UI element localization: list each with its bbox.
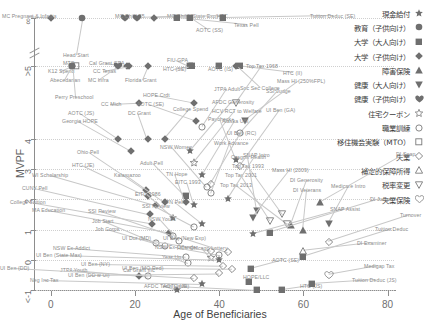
data-point-marker[interactable]	[190, 274, 198, 282]
legend-square-open-icon	[414, 138, 424, 146]
data-point-marker[interactable]	[215, 269, 223, 277]
data-point-label: AOTC (SS)	[196, 27, 223, 33]
data-point-label: DI Snap	[396, 151, 415, 157]
data-point-marker[interactable]	[224, 195, 232, 204]
data-point-label: MC Pregnant & Infants	[2, 13, 57, 19]
data-point-marker[interactable]	[144, 135, 152, 143]
data-point-label: UI Ben (DD)	[0, 265, 29, 271]
data-point-marker[interactable]	[78, 14, 86, 22]
legend-star-icon	[414, 9, 424, 18]
y-tick-label: 0	[0, 254, 28, 266]
data-point-label: AOTC (SE)	[272, 257, 299, 263]
data-point-marker[interactable]	[228, 265, 236, 273]
data-point-label: Florida Grant	[125, 77, 157, 83]
legend-heart-open-icon	[414, 195, 424, 203]
data-point-marker[interactable]	[325, 220, 333, 228]
legend-label: 健康（子供向け）	[354, 93, 410, 104]
data-point-marker[interactable]	[161, 135, 169, 143]
data-point-marker[interactable]	[207, 189, 215, 197]
data-point-marker[interactable]	[324, 271, 333, 279]
data-point-label: Mass HI (250%FPL)	[277, 78, 325, 84]
data-point-marker[interactable]	[232, 62, 240, 70]
data-point-label: College Tuition	[10, 199, 46, 205]
data-point-marker[interactable]	[133, 14, 142, 22]
legend-item[interactable]: 住宅クーポン	[320, 106, 424, 120]
data-point-label: Neg Inc Tax	[30, 277, 58, 283]
data-point-marker[interactable]	[127, 147, 135, 155]
data-point-label: Tuition Deduc (JS)	[352, 277, 397, 283]
data-point-label: UI Ben (GA)	[266, 107, 295, 113]
data-point-marker[interactable]	[253, 286, 261, 294]
legend-item[interactable]: 健康（子供向け）	[320, 92, 424, 106]
data-point-marker[interactable]	[186, 147, 194, 156]
data-point-marker[interactable]	[224, 248, 232, 256]
data-point-label: SNAP Assist	[330, 206, 360, 212]
data-point-marker[interactable]	[266, 217, 274, 225]
data-point-label: Work Advance	[214, 140, 249, 146]
data-point-marker[interactable]	[114, 62, 123, 70]
legend-item[interactable]: 健康（大人向け）	[320, 77, 424, 91]
data-point-label: Head Start	[63, 52, 89, 58]
legend-item[interactable]: 大学（大人向け）	[320, 35, 424, 49]
legend-item[interactable]: 教育（子供向け）	[320, 20, 424, 34]
legend-item[interactable]: 大学（子供向け）	[320, 49, 424, 63]
data-point-label: CUNY Pell	[22, 185, 48, 191]
legend-item[interactable]: 職業訓練	[320, 120, 424, 134]
x-axis-title: Age of Beneficiaries	[120, 308, 320, 320]
data-point-marker[interactable]	[278, 286, 286, 294]
data-point-marker[interactable]	[198, 171, 206, 180]
legend-item[interactable]: 障害保険	[320, 63, 424, 77]
data-point-marker[interactable]	[190, 159, 198, 168]
data-point-marker[interactable]	[316, 198, 324, 206]
data-point-label: NSW Ex-Offender	[155, 244, 198, 250]
data-point-marker[interactable]	[173, 14, 181, 22]
data-point-marker[interactable]	[299, 226, 307, 234]
data-point-label: AOTC (JS)	[68, 110, 94, 116]
data-point-label: NSW Ex-Addict	[53, 245, 90, 251]
data-point-label: Ohio Pell	[77, 149, 99, 155]
data-point-marker[interactable]	[299, 253, 307, 261]
data-point-marker[interactable]	[68, 62, 76, 70]
data-point-marker[interactable]	[198, 123, 206, 131]
data-point-label: MA Education	[32, 207, 65, 213]
y-axis-line	[34, 18, 35, 290]
y-tick-label: 4	[0, 133, 28, 145]
x-tick-mark	[51, 291, 52, 296]
data-point-label: Texas Pell	[234, 22, 259, 28]
data-point-marker[interactable]	[186, 14, 194, 22]
data-point-label: AOTC (IS)	[208, 66, 233, 72]
data-point-label: HTC (JE)	[72, 162, 94, 168]
legend-square-filled-icon	[414, 38, 424, 46]
data-point-label: Job Start	[92, 218, 114, 224]
data-point-marker[interactable]	[150, 14, 158, 22]
legend-label: 大学（子供向け）	[354, 51, 410, 62]
data-point-label: HOPE/LLC	[243, 274, 269, 280]
data-point-marker[interactable]	[247, 265, 255, 273]
data-point-marker[interactable]	[219, 14, 227, 22]
data-point-marker[interactable]	[190, 223, 198, 231]
data-point-label: Abecedarian	[50, 77, 80, 83]
data-point-marker[interactable]	[249, 230, 257, 239]
data-point-marker[interactable]	[236, 162, 244, 170]
data-point-marker[interactable]	[190, 201, 198, 210]
legend-item[interactable]: 移住機会実験（MTO）	[320, 135, 424, 149]
legend-label: 大学（大人向け）	[354, 36, 410, 47]
data-point-label: UI Ben (MO Red)	[122, 265, 164, 271]
legend-circle-open-icon	[414, 124, 424, 132]
data-point-marker[interactable]	[308, 280, 316, 288]
data-point-marker[interactable]	[249, 214, 257, 222]
legend: 現金給付教育（子供向け）大学（大人向け）大学（子供向け）障害保険健康（大人向け）…	[320, 6, 424, 206]
gridline	[36, 290, 394, 291]
data-point-label: HTC (SE)	[163, 66, 186, 72]
legend-label: 現金給付	[382, 8, 410, 19]
data-point-label: DI Examiner	[357, 240, 387, 246]
data-point-marker[interactable]	[125, 62, 133, 70]
data-point-marker[interactable]	[198, 219, 206, 228]
data-point-label: UI Ben (NY)	[81, 261, 110, 267]
data-point-label: Alaska UBI	[222, 118, 249, 124]
data-point-marker[interactable]	[325, 238, 333, 246]
data-point-marker[interactable]	[188, 62, 196, 70]
data-point-label: SSI Review	[88, 208, 116, 214]
data-point-label: WI Scholarship	[32, 172, 68, 178]
data-point-marker[interactable]	[144, 62, 152, 70]
